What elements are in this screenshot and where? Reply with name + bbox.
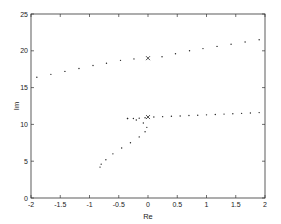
data-point [78, 68, 79, 69]
data-point [105, 159, 106, 160]
data-point [130, 142, 131, 143]
x-tick-label: 0.5 [172, 201, 182, 208]
data-point [188, 115, 189, 116]
data-point [64, 71, 65, 72]
data-point [258, 112, 259, 113]
x-tick-label: 1.5 [231, 201, 241, 208]
data-point [101, 163, 102, 164]
data-point [143, 122, 144, 123]
data-point [99, 166, 100, 167]
data-point [215, 114, 216, 115]
data-point [153, 116, 154, 117]
y-tick-label: 20 [20, 47, 28, 54]
data-point [171, 116, 172, 117]
data-point [133, 118, 134, 119]
data-point [133, 58, 134, 59]
x-tick-label: -2 [28, 201, 34, 208]
root-locus-chart: -2-1.5-1-0.500.511.520510152025 Re Im [0, 0, 281, 224]
data-point [112, 153, 113, 154]
data-point [216, 46, 217, 47]
data-point [258, 39, 259, 40]
y-tick-label: 5 [24, 158, 28, 165]
data-point [144, 117, 145, 118]
x-tick-label: -1.5 [54, 201, 66, 208]
data-point [106, 63, 107, 64]
data-point [179, 115, 180, 116]
data-point [250, 112, 251, 113]
data-point [139, 117, 140, 118]
data-point [230, 43, 231, 44]
y-tick-label: 0 [24, 195, 28, 202]
y-axis-label: Im [12, 102, 21, 110]
data-point [146, 127, 147, 128]
x-tick-label: -1 [86, 201, 92, 208]
data-point [36, 77, 37, 78]
plot-area [31, 14, 265, 198]
data-point [206, 114, 207, 115]
data-point [232, 113, 233, 114]
data-point [189, 50, 190, 51]
data-point [136, 119, 137, 120]
data-point [244, 41, 245, 42]
x-tick-label: 2 [263, 201, 267, 208]
x-axis-label: Re [143, 212, 153, 221]
data-point [92, 65, 93, 66]
data-point [139, 136, 140, 137]
y-tick-label: 15 [20, 84, 28, 91]
y-tick-label: 25 [20, 11, 28, 18]
data-point [50, 74, 51, 75]
x-tick-label: 1 [205, 201, 209, 208]
data-point [127, 118, 128, 119]
y-tick-label: 10 [20, 121, 28, 128]
data-point [223, 113, 224, 114]
data-point [197, 115, 198, 116]
data-point [121, 147, 122, 148]
data-point [161, 56, 162, 57]
data-point [241, 113, 242, 114]
data-point [175, 53, 176, 54]
data-point [202, 48, 203, 49]
data-point [162, 116, 163, 117]
data-point [144, 131, 145, 132]
data-point [120, 60, 121, 61]
x-tick-label: -0.5 [113, 201, 125, 208]
x-tick-label: 0 [146, 201, 150, 208]
